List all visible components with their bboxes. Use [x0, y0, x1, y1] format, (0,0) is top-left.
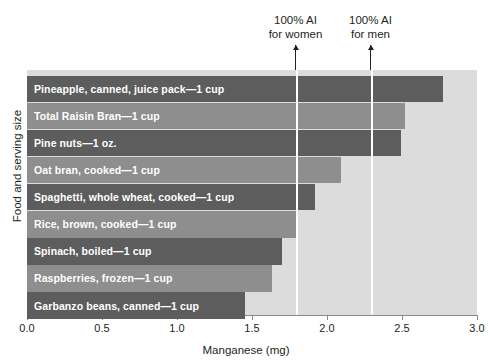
bar-label: Rice, brown, cooked—1 cup [34, 218, 177, 230]
bar-row: Spinach, boiled—1 cup [27, 238, 282, 265]
y-axis-title: Food and serving size [11, 106, 23, 226]
reference-annotation-men-line1: 100% AI [311, 14, 431, 28]
reference-line-men [371, 70, 373, 315]
reference-annotation-men-line2: for men [311, 28, 431, 42]
bar-row: Raspberries, frozen—1 cup [27, 265, 272, 292]
bar-label: Spinach, boiled—1 cup [34, 245, 152, 257]
x-tick-label: 3.0 [469, 322, 484, 334]
reference-arrow-women [295, 45, 296, 70]
x-tick-label: 2.5 [394, 322, 409, 334]
x-tick-label: 0.0 [19, 322, 34, 334]
bar-row: Oat bran, cooked—1 cup [27, 157, 341, 184]
x-tick-label: 1.0 [169, 322, 184, 334]
reference-arrow-men [370, 45, 371, 70]
x-tick [327, 315, 328, 320]
bar-row: Total Raisin Bran—1 cup [27, 103, 405, 130]
bar-label: Pine nuts—1 oz. [34, 137, 117, 149]
bar-label: Total Raisin Bran—1 cup [34, 110, 160, 122]
x-tick-label: 0.5 [94, 322, 109, 334]
bar-label: Spaghetti, whole wheat, cooked—1 cup [34, 191, 234, 203]
bar-row: Garbanzo beans, canned—1 cup [27, 292, 245, 319]
bar-row: Spaghetti, whole wheat, cooked—1 cup [27, 184, 315, 211]
bar-label: Pineapple, canned, juice pack—1 cup [34, 83, 224, 95]
x-tick-label: 1.5 [244, 322, 259, 334]
plot-area: Pineapple, canned, juice pack—1 cupTotal… [27, 70, 477, 315]
bar-row: Pine nuts—1 oz. [27, 130, 401, 157]
bar-row: Pineapple, canned, juice pack—1 cup [27, 76, 443, 103]
bar-row: Rice, brown, cooked—1 cup [27, 211, 296, 238]
reference-annotation-men: 100% AI for men [311, 14, 431, 41]
x-tick [402, 315, 403, 320]
bar-label: Garbanzo beans, canned—1 cup [34, 300, 199, 312]
bar-label: Raspberries, frozen—1 cup [34, 272, 172, 284]
manganese-bar-chart: 100% AI for women 100% AI for men Pineap… [0, 0, 492, 363]
reference-line-women [296, 70, 298, 315]
x-tick [477, 315, 478, 320]
x-tick-label: 2.0 [319, 322, 334, 334]
x-tick [252, 315, 253, 320]
bar-label: Oat bran, cooked—1 cup [34, 164, 160, 176]
x-axis-title: Manganese (mg) [0, 344, 492, 356]
